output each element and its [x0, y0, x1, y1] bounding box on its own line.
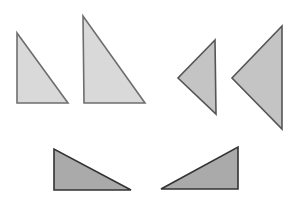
triangles-diagram — [0, 0, 299, 205]
diagram-canvas — [0, 0, 299, 205]
